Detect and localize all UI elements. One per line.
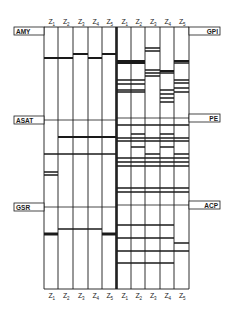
column-label-sub: 5 xyxy=(111,296,114,301)
column-label-sub: 3 xyxy=(154,296,157,301)
column-label-sub: 2 xyxy=(140,22,143,27)
column-label-sub: 1 xyxy=(126,296,129,301)
column-label-sub: 5 xyxy=(183,22,186,27)
column-label-sub: 2 xyxy=(67,296,70,301)
column-label-sub: 4 xyxy=(169,296,172,301)
column-label-sub: 3 xyxy=(82,296,85,301)
label-acp: ACP xyxy=(204,202,218,209)
label-amy: AMY xyxy=(16,28,31,35)
column-label-sub: 4 xyxy=(97,296,100,301)
column-label-sub: 1 xyxy=(126,22,129,27)
label-asat: ASAT xyxy=(16,117,33,124)
column-label-sub: 1 xyxy=(53,22,56,27)
column-label-sub: 3 xyxy=(82,22,85,27)
column-label-sub: 1 xyxy=(53,296,56,301)
column-label-sub: 3 xyxy=(154,22,157,27)
column-label-sub: 2 xyxy=(67,22,70,27)
label-pe: PE xyxy=(209,115,218,122)
column-label-sub: 5 xyxy=(111,22,114,27)
column-label-sub: 5 xyxy=(183,296,186,301)
label-gpi: GPI xyxy=(207,28,218,35)
label-gsr: GSR xyxy=(16,204,30,211)
column-label-sub: 4 xyxy=(169,22,172,27)
column-label-sub: 2 xyxy=(140,296,143,301)
column-label-sub: 4 xyxy=(97,22,100,27)
zymogram-diagram: AMYASATGSRGPIPEACP Z1Z2Z3Z4Z5Z1Z2Z3Z4Z5Z… xyxy=(0,0,233,315)
